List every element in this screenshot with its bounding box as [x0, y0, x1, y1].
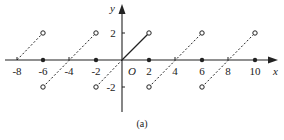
origin-label: O — [128, 65, 136, 77]
x-axis-arrow-icon — [268, 57, 278, 64]
x-tick-label: 4 — [172, 65, 178, 77]
x-tick-label: 8 — [225, 65, 231, 77]
y-axis-label: y — [109, 2, 115, 14]
x-tick-label: -6 — [38, 65, 48, 77]
y-tick-label: -2 — [106, 81, 115, 93]
segment-1 — [17, 33, 43, 60]
y-axis-arrow-icon — [119, 4, 126, 14]
figure-caption: (a) — [0, 118, 284, 129]
y-tick-label: 2 — [110, 27, 116, 39]
x-axis-label: x — [272, 65, 278, 77]
x-tick-label: -8 — [12, 65, 22, 77]
segment-solid — [122, 33, 149, 60]
x-tick-label: -2 — [91, 65, 100, 77]
x-tick-label: -4 — [64, 65, 74, 77]
x-tick-label: 6 — [199, 65, 205, 77]
x-tick-label: 2 — [146, 65, 152, 77]
x-tick-label: 10 — [250, 65, 262, 77]
